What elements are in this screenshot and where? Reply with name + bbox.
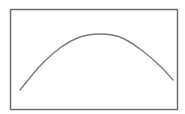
chart [0, 0, 185, 114]
chart-canvas [0, 0, 185, 114]
parabola-curve [20, 34, 173, 90]
